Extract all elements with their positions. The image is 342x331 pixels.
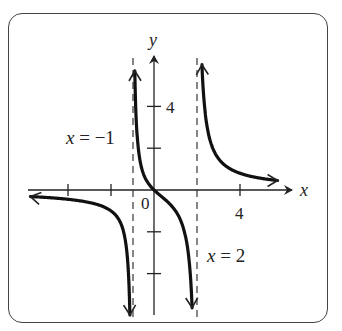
x-tick-label-4: 4 <box>235 204 244 223</box>
y-axis-label: y <box>147 30 157 50</box>
asymptote-left-label: x = −1 <box>65 127 115 148</box>
y-tick-label-4: 4 <box>166 98 175 117</box>
plot-area: y x 0 4 4 x = −1 x = 2 <box>0 0 342 331</box>
origin-label: 0 <box>141 194 150 213</box>
curve-branch-1 <box>30 197 129 316</box>
x-axis-label: x <box>299 180 308 200</box>
curve-branch-3 <box>202 65 278 181</box>
asymptote-right-label: x = 2 <box>206 245 245 266</box>
